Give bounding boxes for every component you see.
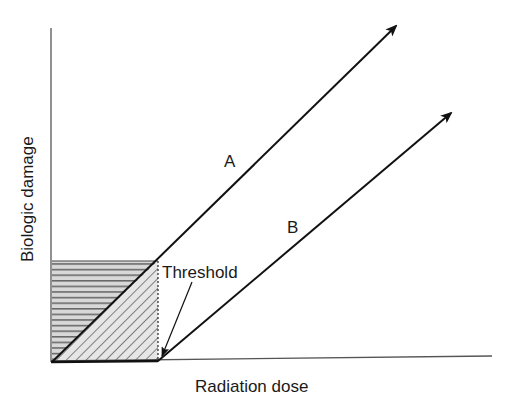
- x-axis-label: Radiation dose: [195, 377, 308, 396]
- curve-a-line: [52, 26, 396, 362]
- threshold-label: Threshold: [162, 263, 238, 282]
- curve-a-label: A: [224, 152, 236, 171]
- y-axis-label: Biologic damage: [18, 136, 37, 262]
- dose-response-diagram: A B Threshold Radiation dose Biologic da…: [0, 0, 520, 408]
- curve-b-label: B: [287, 218, 298, 237]
- curve-b-line: [158, 113, 451, 361]
- threshold-dose-segment: [51, 361, 158, 362]
